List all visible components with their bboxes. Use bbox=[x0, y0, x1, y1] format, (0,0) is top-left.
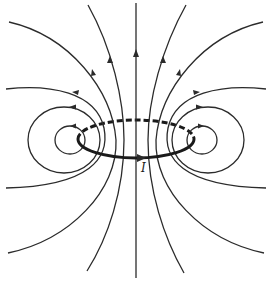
right-field-lines bbox=[148, 5, 266, 273]
field-line-left-2 bbox=[28, 107, 100, 173]
arrow-icon-right-1 bbox=[198, 124, 204, 129]
field-line-right-2 bbox=[172, 107, 244, 173]
arrow-icon-left-1 bbox=[70, 124, 76, 129]
field-line-left-1 bbox=[55, 126, 85, 154]
arrow-icon-left-4 bbox=[91, 69, 96, 76]
arrow-icon-left-5 bbox=[107, 56, 113, 63]
left-field-lines bbox=[6, 5, 124, 271]
arrow-icon-right-4 bbox=[176, 69, 181, 76]
current-label: I bbox=[140, 161, 146, 175]
arrow-icon-right-5 bbox=[160, 56, 166, 63]
arrow-icon-left-2 bbox=[69, 105, 76, 110]
arrow-icon-right-2 bbox=[196, 105, 203, 110]
arrow-icon-axis bbox=[133, 49, 139, 57]
field-line-right-1 bbox=[187, 126, 217, 154]
current-loop-field-diagram: I bbox=[0, 0, 268, 289]
